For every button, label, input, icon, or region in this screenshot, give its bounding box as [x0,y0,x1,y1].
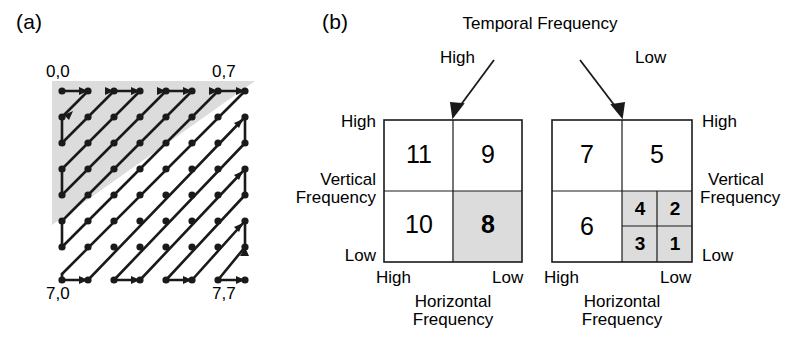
right-box-quadrant-7: 7 [562,140,612,169]
corner-label-top-right: 0,7 [212,62,236,82]
right-box-subquadrant-2: 2 [660,198,690,220]
left-temporal-arrowhead [451,103,463,117]
left-box-vertical-high-label: High [316,112,376,131]
left-box-quadrant-8: 8 [463,210,513,239]
right-box-vertical-high-label: High [702,112,737,131]
left-box-horizontal-axis-title-line1: Horizontal [383,292,523,311]
left-box-vertical-axis-title-line1: Vertical [286,170,376,189]
temporal-frequency-title: Temporal Frequency [460,14,620,33]
left-box-horizontal-low-label: Low [492,268,523,287]
left-box-temporal-label: High [440,48,475,67]
right-box-quadrant-6: 6 [562,212,612,241]
right-box-subquadrant-1: 1 [660,233,690,255]
left-box-horizontal-axis-title-line2: Frequency [383,310,523,329]
right-box-subquadrant-4: 4 [625,198,655,220]
corner-label-top-left: 0,0 [46,62,70,82]
left-box-quadrant-9: 9 [463,140,513,169]
right-box-horizontal-high-label: High [544,268,579,287]
zigzag-scan-diagram [0,0,280,344]
right-box-vertical-axis-title-line2: Frequency [700,188,780,207]
right-box-vertical-low-label: Low [702,246,733,265]
temporal-frequency-arrows [451,60,624,117]
right-box-horizontal-axis-title-line2: Frequency [552,310,692,329]
right-box-horizontal-axis-title-line1: Horizontal [552,292,692,311]
right-box-horizontal-low-label: Low [660,268,691,287]
right-box-subquadrant-3: 3 [625,233,655,255]
right-box-vertical-axis-title-line1: Vertical [708,170,764,189]
left-box-quadrant-11: 11 [394,140,444,169]
figure-root: (a) [0,0,807,344]
left-box-vertical-axis-title-line2: Frequency [286,188,376,207]
left-box-horizontal-high-label: High [376,268,411,287]
right-box-quadrant-5: 5 [632,140,682,169]
right-temporal-arrowhead [612,103,624,117]
right-box-temporal-label: Low [635,48,666,67]
panel-b: (b) [280,0,807,344]
left-box-quadrant-10: 10 [394,210,444,239]
corner-label-bottom-left: 7,0 [46,284,70,304]
corner-label-bottom-right: 7,7 [212,284,236,304]
left-box-vertical-low-label: Low [316,246,376,265]
right-temporal-arrow-shaft [580,60,618,110]
left-temporal-arrow-shaft [457,60,494,110]
panel-a: (a) [0,0,280,344]
